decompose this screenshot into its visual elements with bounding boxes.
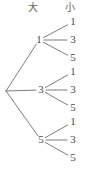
leaf-node-5-5: 5 <box>67 152 79 163</box>
edge-1-to-1-0-0 <box>43 25 67 38</box>
tree-diagram-canvas: 大小 113531355135 <box>0 0 88 181</box>
branch-node-5: 5 <box>35 134 47 145</box>
branch-node-3: 3 <box>35 84 47 95</box>
header-small: 小 <box>62 3 78 13</box>
leaf-node-3-1: 1 <box>67 66 79 77</box>
header-large: 大 <box>25 3 41 13</box>
edge-5-to-1-2-0 <box>45 125 67 138</box>
leaf-node-3-3: 3 <box>67 84 79 95</box>
leaf-node-1-1: 1 <box>67 16 79 27</box>
edge-3-to-1-1-0 <box>45 75 67 88</box>
leaf-node-5-3: 3 <box>67 134 79 145</box>
leaf-node-3-5: 5 <box>67 102 79 113</box>
edge-root-to-3-1 <box>6 90 36 91</box>
edge-3-to-5-1-2 <box>45 92 67 105</box>
leaf-node-1-5: 5 <box>67 52 79 63</box>
edge-root-to-5-2 <box>6 91 38 136</box>
edge-root-to-1-0 <box>6 44 36 91</box>
branch-node-1: 1 <box>33 34 45 45</box>
leaf-node-5-1: 1 <box>67 116 79 127</box>
edge-5-to-5-2-2 <box>45 142 67 155</box>
edge-1-to-5-0-2 <box>43 42 67 55</box>
leaf-node-1-3: 3 <box>67 34 79 45</box>
